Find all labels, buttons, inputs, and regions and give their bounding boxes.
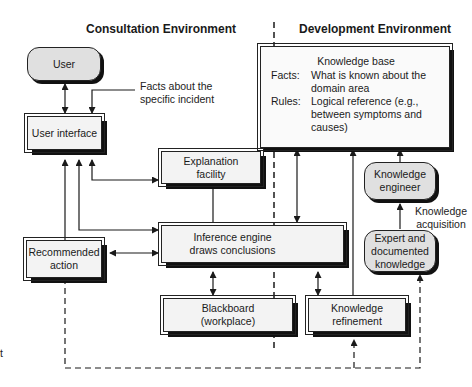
explanation-facility-label: Explanation facility: [171, 155, 251, 181]
knowledge-base-node: Knowledge base Facts: What is known abou…: [260, 46, 450, 148]
facts-incident-annotation: Facts about the specific incident: [140, 80, 240, 106]
user-interface-label: User interface: [32, 127, 97, 140]
user-node: User: [27, 47, 101, 81]
recommended-action-label: Recommended action: [28, 246, 100, 272]
rules-label: Rules:: [271, 95, 311, 134]
user-label: User: [53, 58, 75, 71]
rules-value: Logical reference (e.g., between symptom…: [311, 95, 441, 134]
recommended-action-node: Recommended action: [26, 240, 102, 278]
blackboard-node: Blackboard (workplace): [163, 298, 293, 332]
inference-engine-node: Inference engine draws conclusions: [161, 225, 344, 263]
development-environment-heading: Development Environment: [299, 22, 451, 36]
facts-label: Facts:: [271, 69, 311, 95]
inference-engine-label: Inference engine draws conclusions: [183, 231, 283, 257]
explanation-facility-node: Explanation facility: [161, 151, 261, 184]
facts-value: What is known about the domain area: [311, 69, 441, 95]
knowledge-refinement-node: Knowledge refinement: [308, 298, 406, 332]
expert-knowledge-node: Expert and documented knowledge: [364, 230, 436, 272]
knowledge-engineer-label: Knowledge engineer: [370, 168, 430, 194]
left-edge-fragment: t: [0, 347, 3, 360]
expert-knowledge-label: Expert and documented knowledge: [367, 232, 433, 271]
user-interface-node: User interface: [27, 116, 102, 150]
consultation-environment-heading: Consultation Environment: [86, 22, 236, 36]
knowledge-base-title: Knowledge base: [271, 55, 441, 68]
knowledge-refinement-label: Knowledge refinement: [322, 302, 392, 328]
blackboard-label: Blackboard (workplace): [188, 302, 268, 328]
knowledge-engineer-node: Knowledge engineer: [364, 162, 436, 200]
knowledge-acquisition-annotation: Knowledge acquisition: [410, 205, 472, 231]
